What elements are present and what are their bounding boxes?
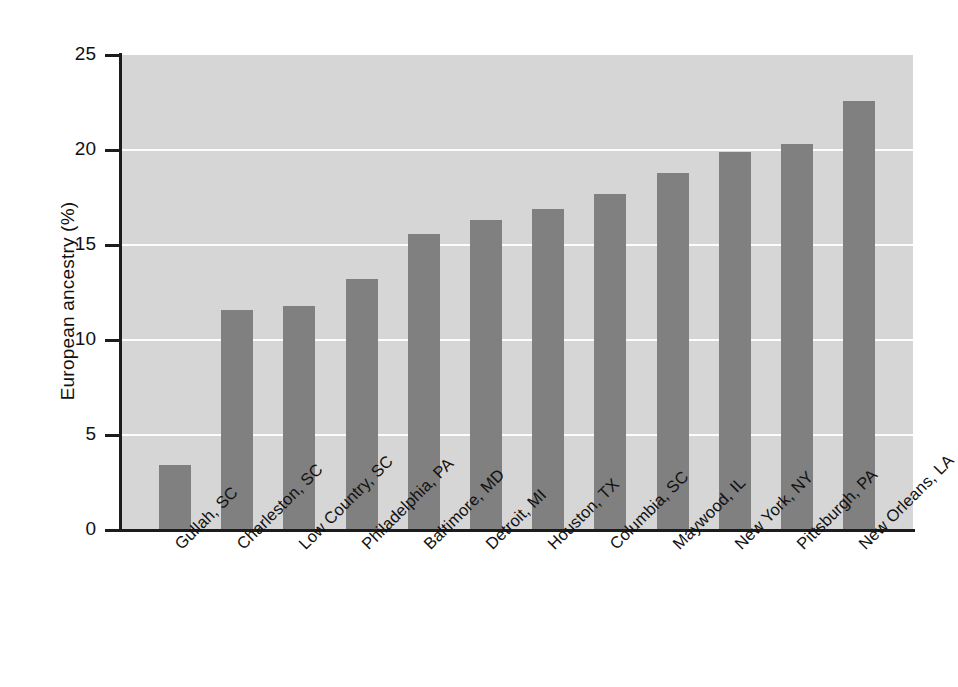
- y-tick-mark: [105, 434, 119, 437]
- y-tick-mark: [105, 529, 119, 532]
- y-tick-mark: [105, 149, 119, 152]
- y-tick-label: 15: [36, 233, 96, 255]
- bar: [843, 101, 875, 530]
- y-tick-label: 5: [36, 423, 96, 445]
- y-tick-label: 20: [36, 138, 96, 160]
- y-tick-mark: [105, 339, 119, 342]
- y-axis-title: European ancestry (%): [57, 171, 79, 431]
- y-tick-label: 0: [36, 518, 96, 540]
- plot-area: [121, 55, 913, 530]
- bar: [159, 465, 191, 530]
- y-tick-mark: [105, 244, 119, 247]
- y-tick-mark: [105, 54, 119, 57]
- bar: [532, 209, 564, 530]
- y-tick-label: 10: [36, 328, 96, 350]
- y-tick-label: 25: [36, 43, 96, 65]
- y-axis-line: [119, 53, 122, 532]
